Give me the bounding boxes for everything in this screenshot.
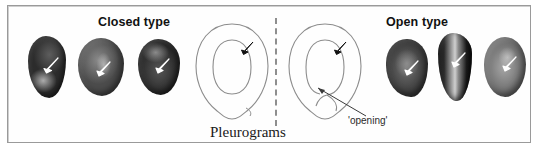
opening-label: 'opening' xyxy=(348,115,387,126)
pleurogram-diagram-closed xyxy=(190,20,274,124)
white-arrow-icon xyxy=(138,39,180,95)
pleurogram-line-closed xyxy=(213,40,251,94)
heading-closed-type: Closed type xyxy=(98,15,170,29)
figure-panel: Closed type Open type xyxy=(7,5,531,143)
white-arrow-icon xyxy=(484,37,526,97)
seed-photo-closed-1 xyxy=(28,36,66,98)
figure-pleurogram-types: Closed type Open type xyxy=(0,0,538,162)
seed-photo-closed-3 xyxy=(138,39,180,95)
seed-photo-open-3 xyxy=(484,37,526,97)
seed-photo-open-1 xyxy=(386,39,428,97)
white-arrow-icon xyxy=(438,33,472,101)
white-arrow-icon xyxy=(78,38,124,96)
seed-photo-closed-2 xyxy=(78,38,124,96)
white-arrow-icon xyxy=(28,36,66,98)
seed-photo-open-2 xyxy=(438,33,472,101)
heading-open-type: Open type xyxy=(386,15,448,29)
caption-pleurograms: Pleurograms xyxy=(210,124,286,141)
seed-outline xyxy=(196,24,268,119)
white-arrow-icon xyxy=(386,39,428,97)
group-divider xyxy=(275,18,277,126)
outline-notch xyxy=(246,108,251,116)
